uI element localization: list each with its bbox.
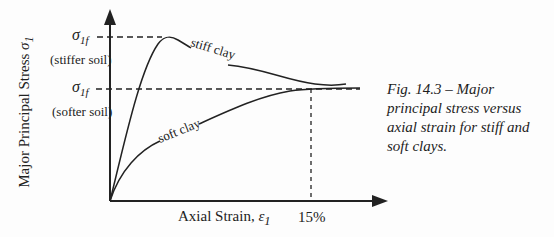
sigma-subscript: 1f (80, 34, 89, 46)
y-axis-arrow-icon (104, 9, 116, 25)
sigma-symbol: σ (72, 78, 80, 95)
x-axis-label: Axial Strain, ε1 (178, 208, 271, 229)
y-axis-label-text: Major Principal Stress (16, 54, 32, 188)
soft-clay-label: soft clay (156, 115, 203, 146)
stiff-peak-symbol: σ1f (72, 26, 88, 46)
soft-peak-symbol: σ1f (72, 78, 88, 98)
sigma-symbol: σ (16, 42, 32, 49)
soft-peak-note: (softer soil) (52, 104, 112, 120)
stiff-clay-curve-tail (228, 65, 346, 85)
sigma-symbol: σ (72, 26, 80, 43)
x-tick-15: 15% (298, 209, 326, 226)
sigma-subscript: 1f (80, 86, 89, 98)
stiff-clay-label: stiff clay (189, 35, 237, 63)
figure-caption: Fig. 14.3 – Major principal stress versu… (387, 80, 552, 156)
stiff-clay-curve (110, 37, 191, 201)
stiff-peak-note: (stiffer soil) (50, 52, 112, 68)
epsilon-subscript: 1 (264, 214, 270, 228)
sigma-subscript: 1 (22, 36, 36, 42)
y-axis-label: Major Principal Stress σ1 (16, 12, 36, 212)
x-axis-arrow-icon (372, 195, 388, 207)
figure: stiff clay soft clay Major Principal Str… (0, 0, 554, 237)
soft-clay-curve-tail (199, 88, 360, 124)
x-axis-label-text: Axial Strain, (178, 208, 255, 224)
